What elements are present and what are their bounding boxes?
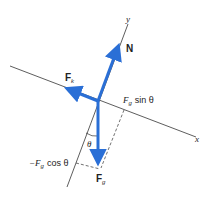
gravity-force-subscript: g [102, 179, 106, 185]
perpendicular-component-label: −Fgcos θ [29, 158, 68, 169]
svg-text:Fg: Fg [96, 173, 106, 185]
friction-force-vector: Fk [65, 72, 98, 101]
normal-force-vector: N [98, 43, 133, 101]
free-body-diagram: x y θ N Fk Fg Fgsin θ −Fgcos θ [0, 0, 211, 201]
parallel-component-label: Fgsin θ [122, 95, 154, 106]
x-axis-label: x [194, 134, 199, 144]
friction-force-subscript: k [71, 78, 75, 84]
angle-theta: θ [86, 133, 98, 149]
y-axis-label: y [125, 14, 130, 24]
component-guides [76, 110, 124, 169]
normal-force-label: N [126, 43, 133, 54]
gravity-force-vector: Fg [96, 101, 106, 185]
svg-text:Fk: Fk [65, 72, 75, 84]
x-axis: x [10, 66, 199, 144]
theta-label: θ [87, 139, 92, 149]
